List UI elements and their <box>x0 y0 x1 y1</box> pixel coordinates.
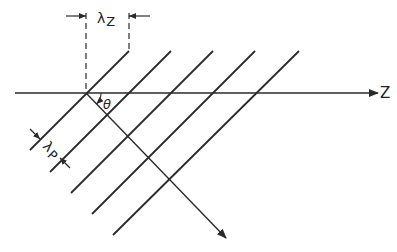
propagation-arrow <box>86 93 226 238</box>
wavefront-3 <box>71 51 213 193</box>
wavefronts <box>30 51 299 235</box>
wavefront-diagram: Z λZ θ λP <box>0 0 397 252</box>
lambda-p-label: λP <box>38 138 64 164</box>
theta-label: θ <box>103 97 111 112</box>
wavefront-1 <box>30 51 129 150</box>
wavefront-4 <box>92 51 255 214</box>
lambda-p-arrow-bottom <box>60 158 70 168</box>
theta-arc <box>97 93 102 104</box>
wavefront-5 <box>113 51 299 235</box>
lambda-z-label: λZ <box>97 10 115 29</box>
z-axis-label: Z <box>380 84 390 102</box>
lambda-p-arrow-top <box>30 129 40 139</box>
